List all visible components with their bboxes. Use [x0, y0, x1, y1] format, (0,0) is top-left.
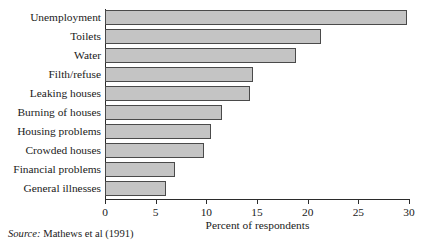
bar-row [105, 48, 296, 63]
category-label-slot: General illnesses [0, 181, 101, 196]
category-label: Unemployment [1, 10, 101, 25]
category-label-slot: Crowded houses [0, 143, 101, 158]
x-tick-label: 25 [338, 205, 378, 219]
category-label-slot: Filth/refuse [0, 67, 101, 82]
x-tick-mark [358, 200, 359, 204]
category-label: General illnesses [1, 181, 101, 196]
bar-chart-plot-area: UnemploymentToiletsWaterFilth/refuseLeak… [0, 0, 440, 205]
x-tick-label: 20 [288, 205, 328, 219]
x-tick-mark [308, 200, 309, 204]
category-label: Leaking houses [1, 86, 101, 101]
category-label-slot: Leaking houses [0, 86, 101, 101]
category-label: Burning of houses [1, 105, 101, 120]
bar [105, 143, 204, 158]
bar [105, 67, 253, 82]
x-tick-mark [105, 200, 106, 204]
bar [105, 105, 222, 120]
category-label: Housing problems [1, 124, 101, 139]
figure: UnemploymentToiletsWaterFilth/refuseLeak… [0, 0, 440, 247]
bar [105, 162, 175, 177]
x-tick-label: 10 [186, 205, 226, 219]
category-label-slot: Toilets [0, 29, 101, 44]
category-label: Water [1, 48, 101, 63]
x-axis-title: Percent of respondents [105, 219, 410, 231]
x-tick-label: 30 [389, 205, 429, 219]
category-label-slot: Housing problems [0, 124, 101, 139]
source-keyword: Source: [8, 228, 41, 239]
bar-row [105, 162, 175, 177]
category-label: Toilets [1, 29, 101, 44]
source-note: Source: Mathews et al (1991) [8, 228, 134, 239]
category-label: Crowded houses [1, 143, 101, 158]
bar-row [105, 181, 166, 196]
bar-row [105, 10, 407, 25]
bar-row [105, 67, 253, 82]
category-label: Financial problems [1, 162, 101, 177]
bar-row [105, 29, 321, 44]
category-label-slot: Unemployment [0, 10, 101, 25]
category-label: Filth/refuse [1, 67, 101, 82]
bar-row [105, 86, 250, 101]
x-tick-mark [409, 200, 410, 204]
category-label-slot: Water [0, 48, 101, 63]
x-tick-label: 0 [85, 205, 125, 219]
category-label-slot: Financial problems [0, 162, 101, 177]
category-label-slot: Burning of houses [0, 105, 101, 120]
x-tick-mark [257, 200, 258, 204]
bar-row [105, 143, 204, 158]
bar [105, 181, 166, 196]
bar [105, 124, 211, 139]
bar [105, 29, 321, 44]
bar [105, 10, 407, 25]
bar [105, 86, 250, 101]
x-tick-label: 15 [237, 205, 277, 219]
source-text: Mathews et al (1991) [43, 228, 133, 239]
bar [105, 48, 296, 63]
bar-row [105, 124, 211, 139]
x-tick-mark [156, 200, 157, 204]
x-tick-mark [206, 200, 207, 204]
x-tick-label: 5 [136, 205, 176, 219]
bar-row [105, 105, 222, 120]
